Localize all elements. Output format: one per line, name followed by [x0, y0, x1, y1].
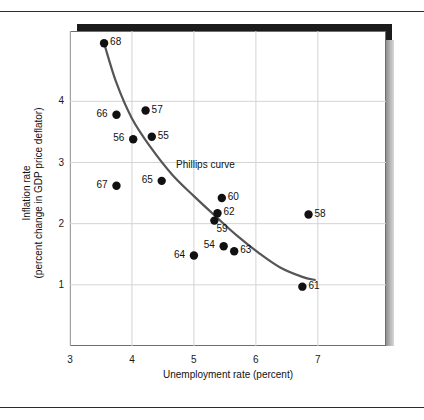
y-tick-label-3: 3	[48, 157, 64, 168]
x-tick-label-3: 3	[62, 354, 78, 365]
y-axis-title: Inflation rate (percent change in GDP pr…	[21, 98, 45, 288]
phillips-curve-annotation: Phillips curve	[176, 159, 235, 170]
data-point-label-60: 60	[228, 191, 239, 202]
data-point-label-56: 56	[113, 132, 124, 143]
bottom-divider-rule	[0, 407, 424, 408]
data-point-label-66: 66	[97, 108, 108, 119]
data-point-label-63: 63	[240, 244, 251, 255]
x-tick-label-6: 6	[248, 354, 264, 365]
data-point-label-59: 59	[216, 223, 227, 234]
top-divider-rule	[0, 11, 424, 12]
data-point-label-67: 67	[97, 179, 108, 190]
data-point-label-61: 61	[308, 280, 319, 291]
figure-container: 123434567 686657565567656062595854636461…	[0, 0, 424, 420]
data-point-label-68: 68	[110, 36, 121, 47]
data-point-label-64: 64	[174, 249, 185, 260]
y-axis-title-line1: Inflation rate	[21, 98, 33, 288]
x-tick-label-4: 4	[124, 354, 140, 365]
y-axis-title-line2: (percent change in GDP price deflator)	[33, 98, 45, 288]
data-point-label-62: 62	[224, 206, 235, 217]
data-point-label-65: 65	[142, 174, 153, 185]
x-tick-label-7: 7	[310, 354, 326, 365]
chart-shadow-fade	[386, 40, 394, 346]
x-axis-title: Unemployment rate (percent)	[70, 369, 386, 380]
data-point-label-55: 55	[158, 130, 169, 141]
y-tick-label-1: 1	[48, 279, 64, 290]
data-point-label-54: 54	[204, 239, 215, 250]
data-point-label-57: 57	[152, 104, 163, 115]
data-point-label-58: 58	[315, 208, 326, 219]
plot-area-frame	[70, 31, 386, 346]
x-tick-label-5: 5	[186, 354, 202, 365]
y-tick-label-2: 2	[48, 218, 64, 229]
y-tick-label-4: 4	[48, 95, 64, 106]
